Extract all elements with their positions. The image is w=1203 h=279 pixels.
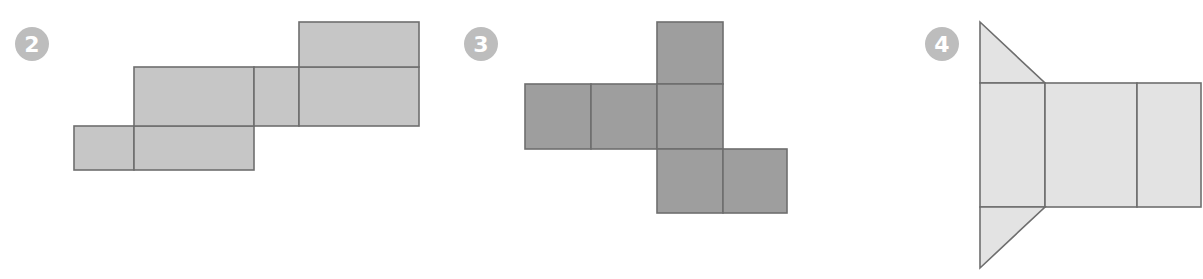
nets-layer — [74, 22, 1201, 268]
net-4 — [980, 22, 1201, 268]
badge-4-number: 4 — [934, 32, 949, 57]
net-3-face-6 — [723, 149, 787, 213]
net-3-face-3 — [591, 84, 657, 149]
net-2-face-2 — [134, 126, 254, 170]
net-3-face-4 — [657, 84, 723, 149]
nets-figure: 2 3 4 — [0, 0, 1203, 279]
net-4-face-5 — [980, 207, 1045, 268]
badge-3: 3 — [464, 27, 498, 61]
badge-4: 4 — [925, 27, 959, 61]
net-3-face-2 — [525, 84, 591, 149]
net-2-face-6 — [299, 22, 419, 67]
net-4-face-3 — [1045, 83, 1137, 207]
net-2-face-5 — [299, 67, 419, 126]
badge-2-number: 2 — [24, 32, 39, 57]
net-2-face-1 — [74, 126, 134, 170]
net-4-face-2 — [980, 83, 1045, 207]
net-4-face-1 — [980, 22, 1045, 83]
net-3 — [525, 22, 787, 213]
net-4-face-4 — [1137, 83, 1201, 207]
net-3-face-1 — [657, 22, 723, 84]
net-3-face-5 — [657, 149, 723, 213]
net-2 — [74, 22, 419, 170]
net-2-face-4 — [254, 67, 299, 126]
badge-3-number: 3 — [473, 32, 488, 57]
badge-2: 2 — [15, 27, 49, 61]
net-2-face-3 — [134, 67, 254, 126]
